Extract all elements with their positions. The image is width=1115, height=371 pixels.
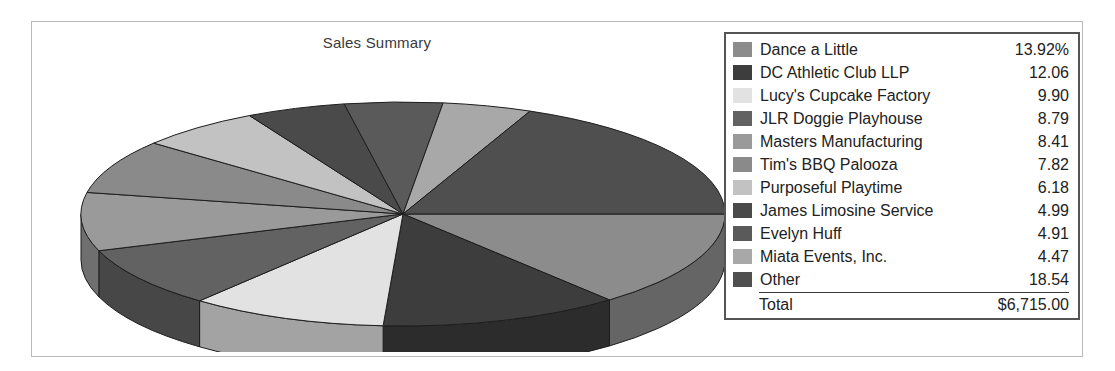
legend-item-value: 4.47	[1038, 245, 1071, 268]
legend-item-label: Purposeful Playtime	[760, 176, 1038, 199]
legend-item[interactable]: Dance a Little13.92%	[733, 38, 1071, 61]
legend: Dance a Little13.92%DC Athletic Club LLP…	[724, 32, 1080, 320]
pie-chart-svg	[68, 72, 728, 352]
page-title: Sales Summary	[32, 34, 722, 51]
legend-color-swatch	[733, 42, 752, 57]
legend-color-swatch	[733, 134, 752, 149]
legend-item-value: 8.41	[1038, 130, 1071, 153]
legend-item-value: 8.79	[1038, 107, 1071, 130]
legend-item-value: 12.06	[1029, 61, 1071, 84]
legend-total-row: Total $6,715.00	[733, 293, 1071, 317]
legend-item-label: Dance a Little	[760, 38, 1015, 61]
legend-color-swatch	[733, 249, 752, 264]
legend-item-label: James Limosine Service	[760, 199, 1038, 222]
legend-item-label: Evelyn Huff	[760, 222, 1038, 245]
pie-top-faces	[81, 102, 725, 326]
legend-color-swatch	[733, 272, 752, 287]
legend-item[interactable]: Other18.54	[733, 268, 1071, 291]
legend-item[interactable]: Masters Manufacturing8.41	[733, 130, 1071, 153]
legend-item[interactable]: Tim's BBQ Palooza7.82	[733, 153, 1071, 176]
legend-total-value: $6,715.00	[998, 293, 1071, 317]
legend-rows: Dance a Little13.92%DC Athletic Club LLP…	[733, 38, 1071, 291]
legend-item-label: DC Athletic Club LLP	[760, 61, 1029, 84]
legend-item-label: Tim's BBQ Palooza	[760, 153, 1038, 176]
legend-item[interactable]: Purposeful Playtime6.18	[733, 176, 1071, 199]
legend-color-swatch	[733, 157, 752, 172]
pie-chart	[68, 72, 728, 352]
legend-color-swatch	[733, 88, 752, 103]
legend-color-swatch	[733, 226, 752, 241]
legend-color-swatch	[733, 203, 752, 218]
legend-item-value: 18.54	[1029, 268, 1071, 291]
chart-screenshot: Sales Summary Dance a Little13.92%DC Ath…	[0, 0, 1115, 371]
legend-item-value: 13.92%	[1015, 38, 1071, 61]
legend-item-label: JLR Doggie Playhouse	[760, 107, 1038, 130]
chart-frame: Sales Summary Dance a Little13.92%DC Ath…	[31, 21, 1083, 357]
legend-item[interactable]: DC Athletic Club LLP12.06	[733, 61, 1071, 84]
legend-item-value: 4.91	[1038, 222, 1071, 245]
legend-color-swatch	[733, 111, 752, 126]
legend-item-label: Miata Events, Inc.	[760, 245, 1038, 268]
legend-item-value: 6.18	[1038, 176, 1071, 199]
legend-item-label: Masters Manufacturing	[760, 130, 1038, 153]
legend-item-label: Other	[760, 268, 1029, 291]
legend-item-value: 7.82	[1038, 153, 1071, 176]
legend-total-label: Total	[759, 293, 998, 317]
legend-item[interactable]: Miata Events, Inc.4.47	[733, 245, 1071, 268]
legend-item[interactable]: James Limosine Service4.99	[733, 199, 1071, 222]
legend-item[interactable]: Evelyn Huff4.91	[733, 222, 1071, 245]
legend-color-swatch	[733, 65, 752, 80]
legend-item[interactable]: Lucy's Cupcake Factory9.90	[733, 84, 1071, 107]
legend-item-label: Lucy's Cupcake Factory	[760, 84, 1038, 107]
legend-item-value: 4.99	[1038, 199, 1071, 222]
legend-item-value: 9.90	[1038, 84, 1071, 107]
legend-item[interactable]: JLR Doggie Playhouse8.79	[733, 107, 1071, 130]
legend-color-swatch	[733, 180, 752, 195]
